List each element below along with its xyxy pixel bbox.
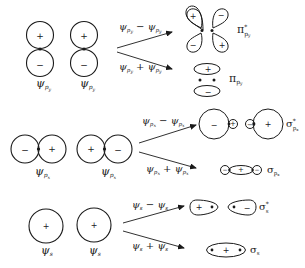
sign: + bbox=[205, 65, 212, 74]
nucleus-dot bbox=[251, 169, 253, 171]
combination-bonding: ψpx + ψpx bbox=[146, 163, 189, 176]
sign: + bbox=[238, 166, 244, 174]
mo-sigma-star-s: + − σ*s bbox=[190, 200, 269, 215]
sign: + bbox=[196, 203, 203, 212]
mo-label: σpx bbox=[267, 164, 280, 177]
sign: + bbox=[230, 120, 236, 128]
nucleus-dot bbox=[38, 47, 41, 50]
mo-sigma-star-px: − + − + σ*px bbox=[199, 109, 299, 139]
nucleus-dot bbox=[253, 123, 256, 126]
sign-minus: − bbox=[80, 60, 88, 70]
sign: − bbox=[218, 11, 225, 20]
lobe-left bbox=[190, 200, 218, 215]
mo-sigma-s: + σs bbox=[207, 243, 260, 257]
atomic-orbital-s-1: + ψs bbox=[29, 209, 63, 257]
mo-pi-star-py: + − − + π*py bbox=[186, 6, 251, 52]
combination-antibonding: ψpx − ψpx bbox=[142, 115, 185, 128]
sign: − bbox=[190, 41, 197, 50]
lobe-right bbox=[228, 200, 256, 215]
nucleus-dot bbox=[213, 79, 216, 82]
row-px: − + ψpx + − ψpx ψpx − ψpx ψpx + ψpx − + … bbox=[11, 109, 299, 180]
mo-label: σ*px bbox=[286, 117, 299, 132]
row-py: + − ψpy + − ψpy ψpy − ψpy ψpy + ψpy bbox=[27, 6, 252, 97]
sign: − bbox=[21, 145, 29, 155]
sign: + bbox=[48, 144, 56, 154]
sign: + bbox=[219, 41, 226, 50]
sign: − bbox=[247, 121, 253, 129]
mo-label: σs bbox=[250, 244, 260, 256]
sign-minus: − bbox=[36, 60, 44, 70]
sign-plus: + bbox=[36, 31, 44, 41]
sign-plus: + bbox=[80, 31, 88, 41]
atomic-orbital-px-2: + − ψpx bbox=[77, 135, 132, 180]
atomic-orbital-py-2: + − ψpy bbox=[71, 22, 98, 92]
sign: − bbox=[222, 166, 227, 173]
sign: + bbox=[223, 246, 230, 255]
combination-antibonding: ψs − ψs bbox=[132, 199, 168, 211]
combination-antibonding: ψpy − ψpy bbox=[119, 21, 162, 34]
sign: − bbox=[244, 204, 251, 213]
mo-label: σ*s bbox=[259, 200, 269, 214]
atomic-orbital-px-1: − + ψpx bbox=[11, 135, 66, 180]
nucleus-dot bbox=[233, 206, 236, 209]
sign: − bbox=[205, 88, 212, 97]
nucleus-dot bbox=[211, 29, 214, 32]
arrow-antibonding bbox=[139, 125, 196, 143]
nucleus-dot bbox=[211, 206, 214, 209]
sign: + bbox=[91, 221, 98, 230]
orbital-label: ψpx bbox=[101, 165, 116, 180]
sign: − bbox=[114, 145, 122, 155]
row-s: + ψs + ψs ψs − ψs ψs + ψs + − σ*s + bbox=[29, 199, 269, 257]
orbital-label: ψpx bbox=[35, 165, 50, 180]
sign: + bbox=[265, 120, 272, 129]
mo-sigma-px: − + − σpx bbox=[221, 164, 281, 177]
nucleus-dot bbox=[211, 249, 214, 252]
orbital-label: ψs bbox=[89, 244, 101, 257]
sign: + bbox=[190, 12, 197, 21]
arrow-antibonding bbox=[117, 32, 172, 48]
orbital-label: ψpy bbox=[36, 77, 51, 92]
orbital-label: ψs bbox=[41, 244, 53, 257]
nucleus-dot bbox=[239, 249, 242, 252]
mo-label: π*py bbox=[237, 23, 251, 38]
nucleus-dot bbox=[82, 47, 85, 50]
mo-pi-py: + − πpy bbox=[194, 64, 243, 97]
nucleus-dot bbox=[103, 147, 106, 150]
nucleus-dot bbox=[201, 29, 204, 32]
sign: − bbox=[254, 166, 259, 173]
sign: + bbox=[87, 144, 95, 154]
orbital-label: ψpy bbox=[80, 77, 95, 92]
nucleus-dot bbox=[199, 79, 202, 82]
combination-bonding: ψs + ψs bbox=[132, 240, 168, 252]
mo-label: πpy bbox=[229, 72, 243, 86]
nucleus-dot bbox=[228, 169, 230, 171]
sign: − bbox=[211, 121, 218, 130]
atomic-orbital-s-2: + ψs bbox=[77, 208, 111, 257]
nucleus-dot bbox=[37, 147, 40, 150]
sign: + bbox=[43, 222, 50, 231]
combination-bonding: ψpy + ψpy bbox=[119, 61, 162, 74]
atomic-orbital-py-1: + − ψpy bbox=[27, 22, 54, 92]
mo-diagram: + − ψpy + − ψpy ψpy − ψpy ψpy + ψpy bbox=[0, 0, 305, 268]
